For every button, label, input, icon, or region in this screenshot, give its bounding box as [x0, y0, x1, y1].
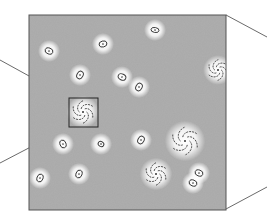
galaxy-core	[82, 111, 84, 113]
connector-line	[226, 187, 267, 209]
galaxy-core	[155, 173, 157, 175]
galaxy-core	[217, 69, 219, 71]
galaxy-field-diagram	[0, 0, 267, 214]
connector-line	[226, 15, 267, 37]
galaxy-core	[184, 140, 186, 142]
